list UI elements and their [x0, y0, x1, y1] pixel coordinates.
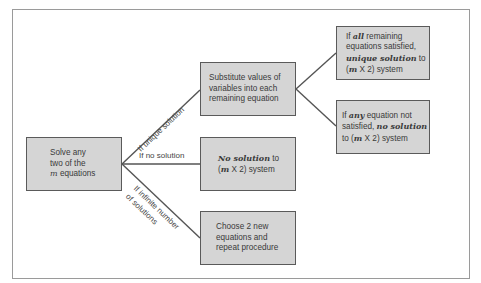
edge-all-satisfied [296, 53, 336, 89]
box-all-satisfied: If all remaining equations satisfied, un… [336, 26, 430, 80]
text-line: m equations [50, 169, 121, 180]
box-substitute-values: Substitute values of variables into each… [200, 62, 296, 116]
text-line: variables into each [209, 84, 295, 95]
text-line: remaining equation [209, 94, 295, 105]
text-line: equations satisfied, [346, 42, 429, 53]
text-line: equations and [216, 233, 295, 244]
box-any-not-satisfied: If any equation not satisfied, no soluti… [336, 100, 430, 154]
text-line: satisfied, no solution [342, 121, 429, 133]
box-choose-new-equations: Choose 2 new equations and repeat proced… [200, 211, 296, 265]
text-line: two of the [50, 159, 121, 170]
text-line: Solve any [50, 148, 121, 159]
box-no-solution: No solution to (m X 2) system [200, 137, 296, 191]
text-line: Choose 2 new [216, 222, 295, 233]
text-line: If all remaining [346, 31, 429, 43]
label-if-no-solution: If no solution [139, 151, 184, 160]
var-m: m [50, 169, 58, 178]
text-line: to (m X 2) system [342, 133, 429, 145]
text-line: If any equation not [342, 110, 429, 122]
text-line: unique solution to [346, 53, 429, 65]
text-line: (m X 2) system [218, 164, 295, 176]
box-solve-two-equations: Solve any two of the m equations [26, 137, 122, 191]
text-line: Substitute values of [209, 73, 295, 84]
text-line: No solution to [218, 153, 295, 165]
text-line: (m X 2) system [346, 64, 429, 76]
edge-any-not-satisfied [296, 89, 336, 126]
text-line: repeat procedure [216, 243, 295, 254]
